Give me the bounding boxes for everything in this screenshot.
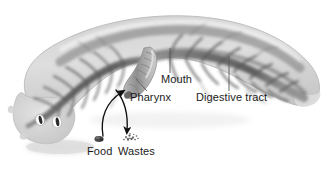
label-pharynx: Pharynx — [130, 92, 171, 103]
planarian-illustration — [0, 0, 331, 170]
waste-particles-icon — [123, 133, 139, 141]
figure-canvas: Mouth Pharynx Digestive tract Food Waste… — [0, 0, 331, 170]
label-digestive-tract: Digestive tract — [196, 92, 267, 103]
flow-arrows — [102, 90, 127, 136]
label-mouth: Mouth — [161, 74, 192, 85]
label-food: Food — [87, 146, 112, 157]
label-wastes: Wastes — [118, 146, 155, 157]
food-particle-icon — [94, 136, 103, 142]
